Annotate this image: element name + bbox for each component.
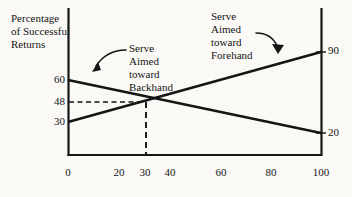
x-tick-label-0: 0: [55, 166, 81, 179]
x-tick-label-100: 100: [308, 166, 334, 179]
chart-figure: Percentageof SuccessfulReturns 60 48 30 …: [0, 0, 352, 197]
x-tick-label-30: 30: [132, 166, 158, 179]
y-tick-label-30: 30: [43, 115, 65, 128]
y-axis-title-line-2: of Successful: [11, 25, 70, 37]
y-tick-label-48: 48: [43, 95, 65, 108]
annotation-backhand-line-2: Aimed: [129, 55, 159, 67]
annotation-backhand-line-3: toward: [129, 68, 160, 80]
x-tick-label-20: 20: [106, 166, 132, 179]
y-axis-title-line-3: Returns: [11, 38, 45, 50]
annotation-forehand-line-4: Forehand: [211, 49, 253, 61]
x-tick-label-80: 80: [258, 166, 284, 179]
annotation-backhand-line-1: Serve: [129, 42, 154, 54]
y-tick-label-right-90: 90: [328, 44, 339, 57]
annotation-forehand-line-2: Aimed: [211, 23, 241, 35]
arrow-forehand-head-icon: [272, 44, 284, 54]
arrow-backhand-head-icon: [92, 62, 101, 72]
arrow-forehand-icon: [256, 33, 277, 46]
y-tick-label-60: 60: [43, 73, 65, 86]
annotation-backhand-line-4: Backhand: [129, 81, 173, 93]
arrow-backhand-icon: [96, 50, 126, 66]
annotation-serve-aimed-toward-backhand: ServeAimedtowardBackhand: [129, 42, 173, 94]
annotation-serve-aimed-toward-forehand: ServeAimedtowardForehand: [211, 10, 253, 62]
annotation-forehand-line-3: toward: [211, 36, 242, 48]
annotation-forehand-line-1: Serve: [211, 10, 236, 22]
x-tick-label-40: 40: [157, 166, 183, 179]
y-axis-title: Percentageof SuccessfulReturns: [11, 12, 70, 51]
y-axis-title-line-1: Percentage: [11, 12, 59, 24]
y-tick-label-right-20: 20: [328, 126, 339, 139]
x-tick-label-60: 60: [208, 166, 234, 179]
